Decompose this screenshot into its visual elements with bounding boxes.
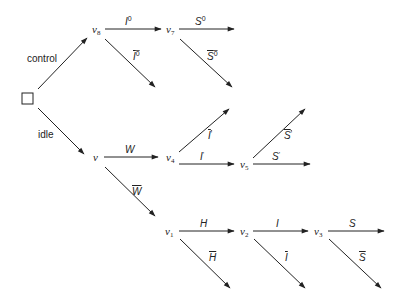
- node-v4: v4: [166, 151, 175, 165]
- edge-label-Sprime: S': [272, 151, 280, 162]
- edge-label-idle: idle: [38, 129, 54, 140]
- edge-label-I0bar: I0: [133, 50, 140, 62]
- edge-label-Wbar: W: [132, 186, 143, 197]
- edge-label-control: control: [27, 53, 57, 64]
- edge-Iprimebar: [179, 109, 229, 152]
- node-v2: v2: [240, 225, 249, 239]
- edge-label-W: W: [125, 144, 136, 155]
- edge-label-Iprimebar: I': [208, 130, 212, 141]
- root-square-node: [22, 93, 33, 104]
- edge-label-S: S: [349, 218, 356, 229]
- node-v5: v5: [240, 158, 249, 172]
- node-v: v: [93, 151, 98, 163]
- node-v1: v1: [165, 225, 174, 239]
- edge-label-S0bar: S0: [207, 50, 218, 62]
- edge-label-S0: S0: [195, 15, 206, 27]
- node-v7: v7: [166, 23, 175, 37]
- edge-Ibar: [254, 239, 305, 288]
- edge-label-Hbar: H: [209, 252, 217, 263]
- edge-label-Sprimebar: S': [284, 130, 292, 141]
- edge-Wbar: [105, 167, 155, 216]
- node-v3: v3: [314, 225, 323, 239]
- decision-tree-diagram: control idle v8 I0 I0 v7 S0 S0 v W W v4 …: [0, 0, 400, 306]
- edge-S0bar: [180, 39, 232, 87]
- edge-label-Sbar: S: [359, 252, 366, 263]
- edge-label-I: I: [276, 218, 279, 229]
- edge-Sbar: [329, 239, 381, 288]
- edge-label-H: H: [200, 218, 208, 229]
- edge-I0bar: [105, 39, 155, 87]
- edge-Hbar: [180, 239, 230, 288]
- node-v8: v8: [92, 23, 101, 37]
- edge-label-Iprime: I': [200, 151, 204, 162]
- edge-label-I0: I0: [125, 15, 132, 27]
- edge-label-Ibar: I: [285, 252, 288, 263]
